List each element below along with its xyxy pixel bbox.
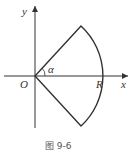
y-axis-label: y xyxy=(21,5,27,17)
origin-label: O xyxy=(20,78,28,90)
angle-arc xyxy=(42,68,45,76)
x-axis-label: x xyxy=(120,78,126,90)
sector-diagram: y x O R α 图 9-6 xyxy=(0,0,133,153)
figure-caption: 图 9-6 xyxy=(45,141,72,151)
angle-label: α xyxy=(48,63,54,75)
radius-label: R xyxy=(95,78,103,90)
